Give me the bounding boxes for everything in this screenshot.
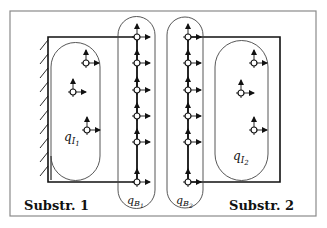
fixed-support-hatch-icon [40,40,48,176]
substructure-diagram: qI1 qI2 qB1 qB2 Substr. 1 Substr. 2 [0,0,327,228]
boundary-label-1: qB1 [127,194,144,209]
substructure-2-label: Substr. 2 [229,198,294,213]
boundary-dof-group-2 [167,17,203,208]
interior-nodes-2 [236,50,267,135]
boundary-nodes-1 [132,24,150,187]
substructure-1-label: Substr. 1 [24,198,89,213]
boundary-nodes-2 [183,24,201,187]
interior-nodes-1 [68,50,100,135]
substructure-1-outline [48,37,137,182]
interior-label-1: qI1 [64,130,80,148]
interior-label-2: qI2 [233,149,249,167]
outer-frame [10,11,316,216]
boundary-label-2: qB2 [176,194,193,209]
